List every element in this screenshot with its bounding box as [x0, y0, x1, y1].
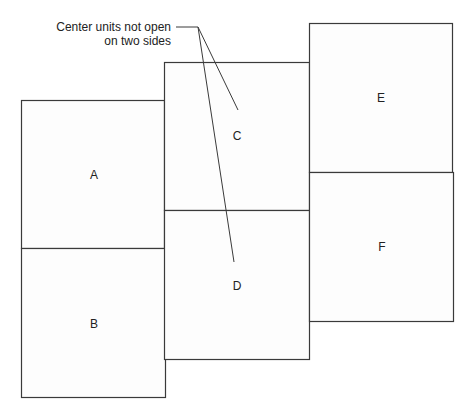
unit-a-label: A [90, 168, 98, 182]
unit-layout-diagram: A B C D E F Center units not open on two… [0, 0, 472, 415]
unit-e-label: E [377, 91, 385, 105]
unit-f-label: F [378, 240, 385, 254]
unit-c-label: C [233, 129, 242, 143]
annotation-line-1: Center units not open [56, 20, 171, 34]
unit-b-label: B [90, 317, 98, 331]
unit-d-label: D [233, 279, 242, 293]
annotation-line-2: on two sides [104, 34, 171, 48]
